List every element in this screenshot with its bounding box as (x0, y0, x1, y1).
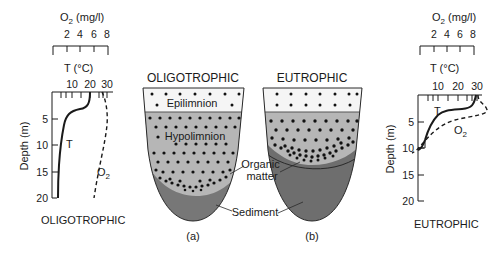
svg-text:6: 6 (91, 28, 97, 40)
svg-text:2: 2 (64, 28, 70, 40)
oxygen-curve (94, 92, 107, 198)
svg-text:4: 4 (77, 28, 83, 40)
sediment-leader-a (216, 205, 232, 211)
oxygen-curve-label: O2 (454, 124, 468, 139)
o2-axis (420, 46, 474, 55)
lake-stratification-diagram: O2 (mg/l) 2 4 6 8 T (°C) 10 20 30 5 10 (0, 0, 495, 255)
svg-text:10: 10 (432, 80, 444, 92)
temperature-axis-title: T (°C) (64, 62, 93, 74)
temperature-curve-label: T (434, 105, 441, 117)
depth-axis-title: Depth (m) (18, 122, 30, 171)
depth-tick-labels: 5 10 15 20 (36, 113, 48, 204)
depth-axis-title: Depth (m) (384, 125, 396, 174)
oxygen-curve-label: O2 (97, 166, 111, 181)
temperature-curve (58, 92, 90, 198)
svg-text:2: 2 (431, 28, 437, 40)
svg-text:30: 30 (101, 78, 113, 90)
svg-text:20: 20 (36, 192, 48, 204)
svg-text:10: 10 (36, 139, 48, 151)
svg-text:20: 20 (402, 195, 414, 207)
depth-axis (52, 92, 58, 198)
temperature-axis (418, 95, 482, 101)
hypolimnion-label: Hypolimnion (165, 130, 226, 142)
svg-text:15: 15 (36, 166, 48, 178)
svg-text:5: 5 (42, 113, 48, 125)
eutrophic-profile-chart: O2 (mg/l) 2 4 6 8 T (°C) 10 20 30 5 (384, 11, 487, 230)
svg-text:30: 30 (471, 80, 483, 92)
o2-axis-title: O2 (mg/l) (432, 11, 476, 26)
svg-text:5: 5 (408, 116, 414, 128)
temperature-axis-title: T (°C) (430, 62, 459, 74)
basin-a-caption: (a) (186, 230, 199, 242)
svg-text:20: 20 (84, 78, 96, 90)
svg-text:4: 4 (444, 28, 450, 40)
oligotrophic-profile-chart: O2 (mg/l) 2 4 6 8 T (°C) 10 20 30 5 10 (18, 11, 125, 226)
temperature-curve-label: T (66, 138, 73, 150)
basin-b-title: EUTROPHIC (277, 71, 348, 85)
svg-text:10: 10 (66, 78, 78, 90)
svg-text:20: 20 (452, 80, 464, 92)
svg-text:8: 8 (470, 28, 476, 40)
basin-a-title: OLIGOTROPHIC (147, 71, 239, 85)
epilimnion-label: Epilimnion (167, 97, 218, 109)
o2-tick-labels: 2 4 6 8 (431, 28, 476, 40)
o2-tick-labels: 2 4 6 8 (64, 28, 110, 40)
svg-text:8: 8 (104, 28, 110, 40)
sediment-label: Sediment (232, 206, 278, 218)
o2-axis-title: O2 (mg/l) (60, 11, 104, 26)
temperature-curve (418, 95, 476, 150)
svg-text:15: 15 (402, 169, 414, 181)
svg-text:6: 6 (457, 28, 463, 40)
eutrophic-profile-caption: EUTROPHIC (414, 218, 479, 230)
o2-axis (53, 46, 108, 55)
organic-matter-label: Organic matter (241, 158, 283, 182)
depth-tick-labels: 5 10 15 20 (402, 116, 414, 207)
temperature-tick-labels: 10 20 30 (432, 80, 483, 92)
temperature-tick-labels: 10 20 30 (66, 78, 113, 90)
oligotrophic-profile-caption: OLIGOTROPHIC (41, 214, 125, 226)
basin-b-caption: (b) (305, 230, 318, 242)
